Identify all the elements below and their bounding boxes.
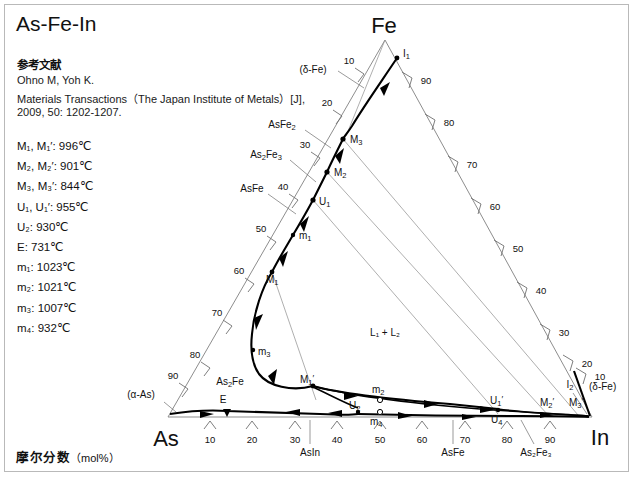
tick-group: 30 [289,421,301,445]
point-marker-u1 [310,197,315,202]
compound-label-asfe: AsFe [240,183,264,194]
tick-label: 40 [536,285,547,296]
arrow-icon [286,409,300,416]
tick-label: 40 [332,434,343,445]
point-label-m2-small: m2 [372,384,385,397]
point-label-i1: I1 [403,48,410,61]
tick-label: 60 [490,201,501,212]
tie-line-m3 [343,139,578,415]
arrow-icon [328,410,342,417]
tick-group: 30 [540,324,569,340]
point-marker-u1prime [496,408,500,412]
tick-group: 60 [416,421,428,445]
edge-as-fe [168,40,385,417]
region-label-alpha-as: (α-As) [127,389,154,400]
arrow-icon [424,400,438,408]
arrow-icon [380,82,390,96]
curve-m1prime-to-u1prime [313,386,498,409]
right-axis-ticks: 90 80 70 60 50 40 30 20 10 [402,72,605,384]
tick-label: 90 [168,370,179,381]
tick-label: 80 [444,117,455,128]
liquidus-curves [170,58,590,417]
point-label-m3prime: M3′ [569,396,584,410]
point-marker-m3 [340,136,345,141]
point-label-m1prime: M1′ [300,373,315,387]
tick-group: 70 [448,156,477,172]
tie-line-m2 [327,172,548,415]
tick-label: 30 [559,327,570,338]
point-label-m2: M2 [334,167,347,180]
tick-group: 40 [278,181,298,208]
point-label-u1prime: U1′ [490,394,503,408]
tick-group: 90 [544,421,556,445]
point-marker-m1-small [291,233,295,237]
tick-label: 50 [375,434,386,445]
tick-label: 30 [290,434,301,445]
point-marker-m2 [324,169,329,174]
region-label-as2fe: As2Fe [216,376,244,389]
tick-group: 60 [234,265,254,292]
tick-group: 60 [471,198,500,214]
vertex-label-fe: Fe [371,13,397,38]
tick-group: 20 [322,97,342,124]
left-compound-markers: AsFe2 As2Fe3 AsFe [240,119,331,214]
point-label-m1: M1 [266,274,279,287]
compound-label-asfe2: AsFe2 [268,119,296,132]
region-label-delta-fe: (δ-Fe) [299,64,326,75]
tick-label: 90 [545,434,556,445]
curve-m1-to-m1prime [251,272,313,388]
tick-label: 60 [234,265,245,276]
point-label-m4: m4 [370,416,383,429]
tick-group: 90 [168,370,188,397]
tick-group: 20 [246,421,258,445]
tick-label: 20 [247,434,258,445]
compound-label-asfe: AsFe [441,447,465,458]
tick-group: 30 [300,139,320,166]
tick-label: 90 [421,75,432,86]
point-marker-e [223,409,231,417]
tick-group: 40 [517,282,546,298]
tie-lines [272,40,578,415]
tick-group: 10 [344,55,364,82]
tie-line-u1 [313,200,498,414]
point-label-m3-small: m3 [258,346,271,359]
tick-label: 70 [212,307,223,318]
tick-label: 80 [502,434,513,445]
compound-label-asin: AsIn [300,447,320,458]
tick-label: 30 [300,139,311,150]
arrow-icon [398,412,412,419]
point-label-e: E [220,394,227,405]
tick-label: 70 [460,434,471,445]
tick-label: 20 [582,358,593,369]
region-label-i2-delta-fe: (δ-Fe) [589,381,616,392]
tick-label: 10 [344,55,355,66]
point-marker-m3-small [251,348,255,352]
edge-fe-in [385,40,592,417]
phase-diagram-page: As-Fe-In 参考文献 Ohno M, Yoh K. Materials T… [0,0,635,478]
tick-group: 50 [256,223,276,250]
point-label-m3: M3 [350,134,363,147]
tick-group: 70 [459,421,471,445]
curve-fe-liquidus [272,58,397,272]
point-marker-i1 [395,56,400,61]
tick-group: 50 [494,240,523,256]
tick-group: 80 [425,114,454,130]
region-label-l1-l2: L₁ + L₂ [370,327,400,338]
tick-label: 50 [256,223,267,234]
point-marker-m4-open [377,409,382,414]
tick-label: 60 [417,434,428,445]
triangle-edges [168,40,592,417]
point-label-u2: U2 [349,400,360,413]
tick-group: 10 [204,421,216,445]
tick-label: 80 [190,349,201,360]
point-label-m1-small: m1 [299,230,312,243]
tick-label: 40 [278,181,289,192]
vertex-label-in: In [591,425,609,450]
point-label-m2prime: M2′ [540,396,555,410]
tick-label: 50 [513,243,524,254]
vertex-label-as: As [153,426,179,451]
tick-group: 40 [331,421,343,445]
point-label-u1: U1 [319,196,330,209]
tick-group: 80 [501,421,513,445]
compound-label-as2fe3: As₂Fe₃ [520,447,551,458]
